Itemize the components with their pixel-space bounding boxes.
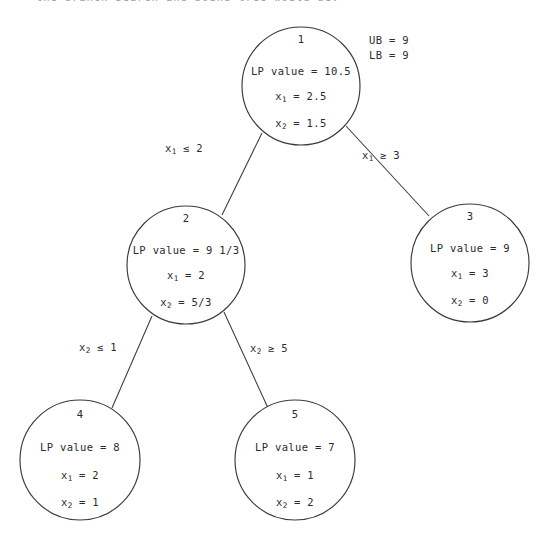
node-1-lp-value: LP value = 10.5 [227,66,375,77]
edge-label-2-4[interactable]: x2 ≤ 1 [79,342,117,355]
caption-fragment-text: the branch search and bound tree would b… [36,0,339,3]
node-4-x1-value: = 2 [79,469,99,481]
bounds-block: UB = 9 LB = 9 [369,33,409,63]
node-3-x1-label: x [451,267,458,279]
node-1-x1-subscript: 1 [282,95,287,104]
node-5-x2-subscript: 2 [283,501,288,510]
node-2-lp-value: LP value = 9 1/3 [108,245,264,256]
node-5-x2: x2 = 2 [221,497,369,510]
node-2-x2: x2 = 5/3 [108,297,264,310]
node-4-x1: x1 = 2 [6,470,154,483]
node-2-x1-value: = 2 [185,269,205,281]
upper-bound-label: UB = 9 [369,33,409,48]
edge-label-2-4-relation: ≤ 1 [97,341,117,353]
node-3-x1-subscript: 1 [458,272,463,281]
edge-line-2-4 [112,316,152,408]
node-4-x2-value: = 1 [79,496,99,508]
node-1-x1: x1 = 2.5 [227,91,375,104]
edge-label-2-5-subscript: 2 [257,347,262,356]
node-5-x1-value: = 1 [294,469,314,481]
node-5[interactable]: 5 LP value = 7 x1 = 1 x2 = 2 [221,409,369,510]
node-1-x1-value: = 2.5 [293,90,326,102]
node-5-x2-label: x [276,496,283,508]
edge-label-2-4-var: x [79,341,86,353]
edge-line-1-3 [346,126,429,216]
node-5-x1: x1 = 1 [221,470,369,483]
node-4-x2-subscript: 2 [68,501,73,510]
node-3-x2-value: = 0 [469,294,489,306]
node-1-x2-value: = 1.5 [293,117,326,129]
caption-fragment: the branch search and bound tree would b… [0,0,547,9]
node-1-x2: x2 = 1.5 [227,118,375,131]
node-3-id: 3 [396,211,544,222]
edge-label-1-2-subscript: 1 [172,147,177,156]
edge-label-2-5-var: x [250,342,257,354]
edge-label-1-2-relation: ≤ 2 [183,142,203,154]
node-4-id: 4 [6,409,154,420]
node-5-id: 5 [221,409,369,420]
node-5-lp-value: LP value = 7 [221,442,369,453]
node-5-x1-subscript: 1 [283,474,288,483]
node-4-x2-label: x [61,496,68,508]
edge-line-2-5 [224,312,268,408]
node-3-x2-label: x [451,294,458,306]
edge-label-1-2-var: x [165,142,172,154]
edge-label-1-3-relation: ≥ 3 [380,149,400,161]
node-3-x2: x2 = 0 [396,295,544,308]
edge-label-1-3-var: x [362,149,369,161]
lower-bound-label: LB = 9 [369,48,409,63]
node-4-x1-subscript: 1 [68,474,73,483]
node-1-x2-subscript: 2 [282,122,287,131]
node-4[interactable]: 4 LP value = 8 x1 = 2 x2 = 1 [6,409,154,510]
node-5-x2-value: = 2 [294,496,314,508]
node-4-lp-value: LP value = 8 [6,442,154,453]
node-4-x2: x2 = 1 [6,497,154,510]
node-2-x1-label: x [167,269,174,281]
edge-label-2-5-relation: ≥ 5 [268,342,288,354]
edge-line-1-2 [222,133,262,215]
node-5-x1-label: x [276,469,283,481]
node-2-x1-subscript: 1 [174,274,179,283]
edge-label-2-5[interactable]: x2 ≥ 5 [250,343,288,356]
node-3-x1: x1 = 3 [396,268,544,281]
node-2-x2-subscript: 2 [167,301,172,310]
node-4-x1-label: x [61,469,68,481]
node-3-x2-subscript: 2 [458,299,463,308]
node-3-lp-value: LP value = 9 [396,243,544,254]
edge-label-2-4-subscript: 2 [86,346,91,355]
node-2[interactable]: 2 LP value = 9 1/3 x1 = 2 x2 = 5/3 [108,213,264,310]
node-2-x1: x1 = 2 [108,270,264,283]
node-3[interactable]: 3 LP value = 9 x1 = 3 x2 = 0 [396,211,544,308]
edge-label-1-3[interactable]: x1 ≥ 3 [362,150,400,163]
node-2-x2-value: = 5/3 [178,296,211,308]
node-2-id: 2 [108,213,264,224]
edge-label-1-2[interactable]: x1 ≤ 2 [165,143,203,156]
node-1-id: 1 [227,34,375,45]
node-3-x1-value: = 3 [469,267,489,279]
edge-label-1-3-subscript: 1 [369,154,374,163]
node-1[interactable]: 1 LP value = 10.5 x1 = 2.5 x2 = 1.5 [227,34,375,131]
